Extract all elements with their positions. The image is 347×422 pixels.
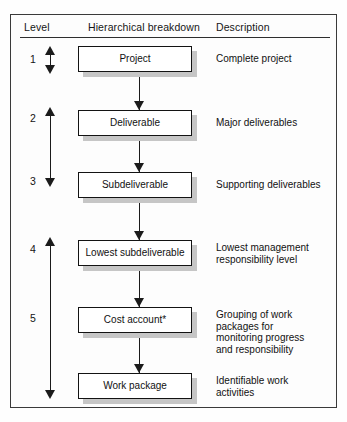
level-number-5: 5: [26, 312, 40, 324]
description-project: Complete project: [216, 53, 332, 65]
description-cost-account: Grouping of work packages for monitoring…: [216, 309, 332, 355]
connector-cost-account-to-work-package: [134, 333, 145, 373]
description-line: Major deliverables: [216, 117, 332, 129]
level-number-1: 1: [26, 53, 40, 65]
level-number-2: 2: [26, 112, 40, 124]
node-project: Project: [78, 46, 192, 72]
description-lowest-subdeliverable: Lowest management responsibility level: [216, 242, 332, 265]
description-line: Grouping of work: [216, 309, 332, 321]
description-line: Identifiable work: [216, 375, 332, 387]
level-span-arrow-2-3: [45, 107, 56, 187]
connector-project-to-deliverable: [134, 72, 145, 110]
connector-lowest-to-cost-account: [134, 266, 145, 307]
description-deliverable: Major deliverables: [216, 117, 332, 129]
column-header-description: Description: [216, 21, 270, 33]
node-label-project: Project: [119, 54, 150, 64]
node-lowest-subdeliverable: Lowest subdeliverable: [78, 240, 192, 266]
column-header-hierarchical-breakdown: Hierarchical breakdown: [88, 21, 200, 33]
node-deliverable: Deliverable: [78, 110, 192, 136]
description-line: Lowest management: [216, 242, 332, 254]
node-label-cost-account: Cost account*: [104, 315, 166, 325]
column-header-level: Level: [24, 21, 50, 33]
node-label-subdeliverable: Subdeliverable: [102, 180, 168, 190]
node-label-work-package: Work package: [103, 381, 167, 391]
wbs-hierarchy-diagram: Level Hierarchical breakdown Description…: [0, 0, 347, 422]
level-number-4: 4: [26, 243, 40, 255]
description-line: responsibility level: [216, 254, 332, 266]
node-label-lowest-subdeliverable: Lowest subdeliverable: [86, 248, 185, 258]
connector-subdeliverable-to-lowest: [134, 198, 145, 240]
header-divider: [20, 37, 330, 38]
node-work-package: Work package: [78, 373, 192, 399]
description-line: Supporting deliverables: [216, 179, 332, 191]
node-label-deliverable: Deliverable: [110, 118, 160, 128]
connector-deliverable-to-subdeliverable: [134, 136, 145, 172]
description-work-package: Identifiable work activities: [216, 375, 332, 398]
level-span-arrow-1: [45, 46, 56, 74]
description-line: monitoring progress: [216, 332, 332, 344]
description-line: Complete project: [216, 53, 332, 65]
description-line: packages for: [216, 321, 332, 333]
description-line: activities: [216, 387, 332, 399]
description-line: and responsibility: [216, 344, 332, 356]
description-subdeliverable: Supporting deliverables: [216, 179, 332, 191]
level-span-arrow-4-5: [45, 237, 56, 399]
node-subdeliverable: Subdeliverable: [78, 172, 192, 198]
level-number-3: 3: [26, 175, 40, 187]
node-cost-account: Cost account*: [78, 307, 192, 333]
